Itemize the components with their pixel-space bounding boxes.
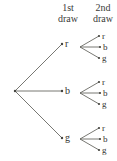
second-draw-node-dot-r-r bbox=[98, 35, 100, 37]
column-header-second-draw: 2nd draw bbox=[87, 2, 117, 24]
second-draw-node-dot-g-b bbox=[99, 138, 101, 140]
second-draw-label-r-r: r bbox=[102, 31, 105, 41]
branch-second-draw-g-g bbox=[80, 139, 99, 150]
branch-second-draw-b-r bbox=[80, 82, 99, 93]
second-draw-node-dot-g-g bbox=[98, 149, 100, 151]
probability-tree-diagram: 1st draw 2nd draw rrbgbrbggrbg bbox=[0, 0, 117, 161]
tree-branches bbox=[0, 0, 117, 161]
branch-second-draw-r-r bbox=[80, 36, 99, 47]
tree-root-node bbox=[14, 90, 16, 92]
first-draw-node-dot-b bbox=[61, 90, 63, 92]
first-draw-label-g: g bbox=[65, 133, 70, 143]
second-draw-label-b-g: g bbox=[102, 99, 107, 109]
header-second-line1: 2nd bbox=[87, 2, 117, 13]
second-draw-label-r-g: g bbox=[102, 53, 107, 63]
second-draw-node-dot-b-g bbox=[98, 103, 100, 105]
header-first-line2: draw bbox=[52, 13, 84, 24]
second-draw-node-dot-b-r bbox=[98, 81, 100, 83]
first-draw-node-dot-g bbox=[61, 137, 63, 139]
column-header-first-draw: 1st draw bbox=[52, 2, 84, 24]
branch-second-draw-r-g bbox=[80, 47, 99, 58]
first-draw-node-dot-r bbox=[61, 43, 63, 45]
second-draw-label-g-b: b bbox=[103, 134, 108, 144]
second-draw-label-r-b: b bbox=[103, 42, 108, 52]
header-second-line2: draw bbox=[87, 13, 117, 24]
second-draw-node-dot-g-r bbox=[98, 127, 100, 129]
header-first-line1: 1st bbox=[52, 2, 84, 13]
second-draw-node-dot-r-g bbox=[98, 57, 100, 59]
second-draw-node-dot-b-b bbox=[99, 92, 101, 94]
branch-first-draw-g bbox=[15, 91, 62, 138]
second-draw-label-b-b: b bbox=[103, 88, 108, 98]
first-draw-label-r: r bbox=[65, 39, 68, 49]
branch-second-draw-b-g bbox=[80, 93, 99, 104]
first-draw-label-b: b bbox=[65, 86, 70, 96]
second-draw-node-dot-r-b bbox=[99, 46, 101, 48]
branch-second-draw-g-r bbox=[80, 128, 99, 139]
second-draw-label-b-r: r bbox=[102, 77, 105, 87]
second-draw-label-g-g: g bbox=[102, 145, 107, 155]
branch-first-draw-r bbox=[15, 44, 62, 91]
second-draw-label-g-r: r bbox=[102, 123, 105, 133]
